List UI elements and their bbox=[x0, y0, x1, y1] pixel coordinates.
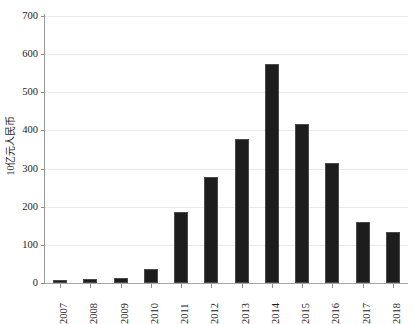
x-tick-mark bbox=[151, 284, 152, 288]
y-tick-mark bbox=[41, 283, 45, 284]
y-tick-label-text: 500 bbox=[8, 87, 38, 98]
x-tick-mark bbox=[332, 284, 333, 288]
bar[interactable] bbox=[144, 269, 158, 283]
x-tick-label-text: 2011 bbox=[180, 303, 191, 324]
y-tick-label: 300 bbox=[8, 164, 38, 175]
x-tick-mark bbox=[393, 284, 394, 288]
x-tick-label-text: 2013 bbox=[241, 303, 252, 324]
bar[interactable] bbox=[174, 212, 188, 283]
x-tick-mark bbox=[90, 284, 91, 288]
bar[interactable] bbox=[356, 222, 370, 283]
gridline bbox=[45, 169, 408, 170]
bar[interactable] bbox=[295, 124, 309, 283]
x-tick-label: 2018 bbox=[387, 292, 414, 306]
bar[interactable] bbox=[83, 279, 97, 283]
y-tick-label: 400 bbox=[8, 125, 38, 136]
bar[interactable] bbox=[386, 232, 400, 283]
bar[interactable] bbox=[265, 64, 279, 283]
x-tick-mark bbox=[121, 284, 122, 288]
y-tick-label-text: 300 bbox=[8, 164, 38, 175]
y-tick-label: 500 bbox=[8, 87, 38, 98]
bar[interactable] bbox=[114, 278, 128, 283]
gridline bbox=[45, 92, 408, 93]
bar[interactable] bbox=[235, 139, 249, 283]
x-tick-label-text: 2014 bbox=[271, 303, 282, 324]
x-tick-label-text: 2017 bbox=[362, 303, 373, 324]
x-tick-label-text: 2015 bbox=[301, 303, 312, 324]
x-tick-mark bbox=[211, 284, 212, 288]
x-tick-label-text: 2018 bbox=[392, 303, 403, 324]
y-tick-label: 700 bbox=[8, 11, 38, 22]
bar[interactable] bbox=[204, 177, 218, 283]
x-tick-label-text: 2010 bbox=[150, 303, 161, 324]
x-tick-mark bbox=[242, 284, 243, 288]
gridline bbox=[45, 16, 408, 17]
gridline bbox=[45, 207, 408, 208]
y-tick-label: 100 bbox=[8, 240, 38, 251]
gridline bbox=[45, 54, 408, 55]
x-tick-mark bbox=[363, 284, 364, 288]
y-tick-label-text: 200 bbox=[8, 202, 38, 213]
x-tick-mark bbox=[181, 284, 182, 288]
x-tick-mark bbox=[272, 284, 273, 288]
x-tick-label-text: 2008 bbox=[89, 303, 100, 324]
bar[interactable] bbox=[325, 163, 339, 283]
y-tick-label: 0 bbox=[8, 278, 38, 289]
y-tick-label-text: 100 bbox=[8, 240, 38, 251]
y-tick-label-text: 600 bbox=[8, 49, 38, 60]
x-tick-label-text: 2009 bbox=[120, 303, 131, 324]
bar[interactable] bbox=[53, 280, 67, 283]
x-axis-line bbox=[45, 283, 408, 284]
x-tick-mark bbox=[60, 284, 61, 288]
y-tick-label-text: 400 bbox=[8, 125, 38, 136]
x-tick-label-text: 2012 bbox=[210, 303, 221, 324]
x-tick-label-text: 2007 bbox=[59, 303, 70, 324]
y-tick-label: 600 bbox=[8, 49, 38, 60]
x-tick-mark bbox=[302, 284, 303, 288]
y-tick-label: 200 bbox=[8, 202, 38, 213]
gridline bbox=[45, 245, 408, 246]
y-tick-label-text: 0 bbox=[8, 278, 38, 289]
x-tick-label-text: 2016 bbox=[331, 303, 342, 324]
plot-area bbox=[45, 16, 408, 283]
y-tick-label-text: 700 bbox=[8, 11, 38, 22]
gridline bbox=[45, 130, 408, 131]
